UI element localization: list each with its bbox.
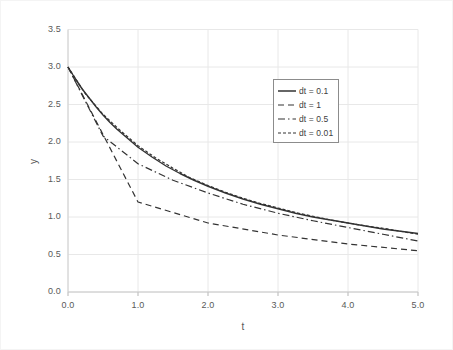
x-tick-label: 3.0: [263, 300, 293, 310]
plot-canvas: [1, 1, 453, 350]
x-tick-label: 2.0: [193, 300, 223, 310]
series-lines: [68, 67, 418, 251]
x-axis-label: t: [223, 321, 263, 332]
y-tick-label: 2.5: [35, 99, 61, 109]
y-tick-label: 2.0: [35, 136, 61, 146]
legend-line-swatch: [277, 86, 297, 96]
chart-legend: dt = 0.1dt = 1dt = 0.5dt = 0.01: [273, 79, 339, 143]
x-tick-label: 5.0: [403, 300, 433, 310]
series-line-3: [68, 67, 418, 234]
legend-item-1: dt = 1: [277, 98, 335, 112]
legend-item-2: dt = 0.5: [277, 112, 335, 126]
legend-item-3: dt = 0.01: [277, 126, 335, 140]
y-tick-label: 0.0: [35, 286, 61, 296]
x-tick-label: 4.0: [333, 300, 363, 310]
legend-line-swatch: [277, 100, 297, 110]
legend-item-label: dt = 0.01: [299, 128, 333, 138]
y-tick-label: 1.0: [35, 211, 61, 221]
gridlines: [68, 30, 418, 293]
y-tick-label: 3.5: [35, 24, 61, 34]
legend-item-label: dt = 1: [299, 100, 321, 110]
x-tick-label: 1.0: [123, 300, 153, 310]
y-tick-label: 1.5: [35, 174, 61, 184]
legend-line-swatch: [277, 128, 297, 138]
y-tick-label: 3.0: [35, 61, 61, 71]
legend-item-label: dt = 0.5: [299, 114, 328, 124]
legend-item-0: dt = 0.1: [277, 84, 335, 98]
legend-item-label: dt = 0.1: [299, 86, 328, 96]
y-axis-label: y: [28, 152, 39, 172]
series-line-2: [68, 67, 418, 241]
series-line-1: [68, 67, 418, 251]
x-tick-label: 0.0: [53, 300, 83, 310]
series-line-0: [68, 67, 418, 234]
axis-lines: [68, 30, 418, 293]
legend-line-swatch: [277, 114, 297, 124]
chart-figure: 0.00.51.01.52.02.53.03.5 0.01.02.03.04.0…: [0, 0, 453, 350]
x-tick-marks: [68, 292, 418, 296]
y-tick-label: 0.5: [35, 249, 61, 259]
